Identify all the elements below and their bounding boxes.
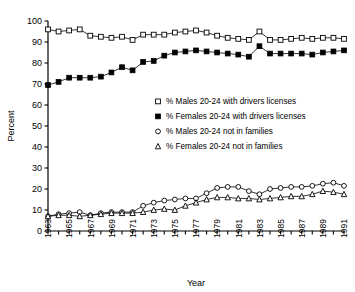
x-tick-label: 1977 (191, 219, 201, 238)
marker-open-square (120, 34, 125, 39)
marker-filled-square (67, 75, 72, 80)
marker-open-square (278, 38, 283, 43)
marker-open-square (268, 38, 273, 43)
marker-filled-square (236, 52, 241, 57)
marker-filled-square (246, 54, 251, 59)
marker-open-square (236, 36, 241, 41)
marker-open-square (56, 29, 61, 34)
marker-open-circle (331, 180, 336, 185)
marker-open-circle (268, 187, 273, 192)
legend-label: % Females 20-24 with drivers licenses (166, 112, 306, 121)
marker-open-square (183, 29, 188, 34)
marker-open-circle (299, 185, 304, 190)
marker-filled-square (88, 75, 93, 80)
marker-open-triangle (320, 188, 325, 193)
series-3 (45, 188, 346, 219)
marker-filled-square (151, 59, 156, 64)
marker-open-square (162, 32, 167, 37)
marker-filled-square (183, 49, 188, 54)
marker-open-circle (151, 200, 156, 205)
y-tick-label: 10 (32, 205, 42, 215)
y-axis-title: Percent (6, 110, 16, 142)
marker-open-square (46, 27, 51, 32)
marker-filled-square (268, 51, 273, 56)
x-axis-title: Year (187, 278, 205, 288)
marker-filled-square (225, 51, 230, 56)
x-tick-label: 1975 (170, 219, 180, 238)
marker-open-circle (310, 183, 315, 188)
marker-open-square (310, 36, 315, 41)
marker-filled-square (98, 74, 103, 79)
legend-item-3: % Females 20-24 not in families (155, 142, 282, 151)
x-tick-label: 1965 (64, 219, 74, 238)
marker-open-circle (289, 185, 294, 190)
marker-open-square (342, 36, 347, 41)
legend-label: % Females 20-24 not in families (166, 142, 283, 151)
marker-open-circle (278, 186, 283, 191)
marker-open-square (156, 99, 161, 104)
marker-open-square (172, 30, 177, 35)
marker-open-square (331, 35, 336, 40)
marker-open-square (88, 33, 93, 38)
marker-open-square (194, 28, 199, 33)
marker-open-square (289, 36, 294, 41)
y-tick-label: 70 (32, 79, 42, 89)
marker-open-circle (215, 186, 220, 191)
marker-open-circle (320, 181, 325, 186)
y-tick-label: 50 (32, 121, 42, 131)
marker-open-square (77, 27, 82, 32)
legend-label: % Males 20-24 with drivers licenses (166, 97, 296, 106)
y-tick-label: 40 (32, 142, 42, 152)
series-1 (46, 44, 347, 88)
marker-open-square (98, 34, 103, 39)
y-tick-label: 20 (32, 184, 42, 194)
marker-open-square (204, 30, 209, 35)
marker-open-square (215, 33, 220, 38)
marker-filled-square (310, 52, 315, 57)
marker-open-square (151, 32, 156, 37)
marker-filled-square (215, 50, 220, 55)
marker-open-circle (162, 198, 167, 203)
legend-label: % Males 20-24 not in families (166, 127, 273, 136)
marker-filled-square (162, 53, 167, 58)
marker-filled-square (46, 83, 51, 88)
marker-filled-square (299, 51, 304, 56)
y-tick-label: 90 (32, 37, 42, 47)
marker-filled-square (77, 75, 82, 80)
x-tick-label: 1967 (86, 219, 96, 238)
legend-item-2: % Males 20-24 not in families (156, 127, 273, 136)
x-tick-label: 1981 (234, 219, 244, 238)
x-tick-label: 1987 (297, 219, 307, 238)
marker-open-square (246, 38, 251, 43)
legend-item-1: % Females 20-24 with drivers licenses (156, 112, 306, 121)
marker-open-square (299, 35, 304, 40)
marker-open-circle (204, 191, 209, 196)
x-tick-label: 1979 (212, 219, 222, 238)
marker-open-square (225, 35, 230, 40)
y-tick-label: 60 (32, 100, 42, 110)
y-tick-label: 100 (27, 16, 42, 26)
x-tick-label: 1983 (255, 219, 265, 238)
marker-open-circle (236, 185, 241, 190)
y-tick-label: 30 (32, 163, 42, 173)
marker-filled-square (331, 49, 336, 54)
marker-filled-square (194, 48, 199, 53)
y-tick-label: 80 (32, 58, 42, 68)
marker-filled-square (109, 70, 114, 75)
marker-filled-square (320, 50, 325, 55)
x-tick-label: 1963 (43, 219, 53, 238)
marker-open-square (109, 35, 114, 40)
marker-open-triangle (155, 144, 160, 149)
marker-open-circle (342, 183, 347, 188)
marker-open-circle (183, 196, 188, 201)
x-tick-label: 1985 (276, 219, 286, 238)
chart-figure: 0102030405060708090100196319651967196919… (0, 0, 355, 292)
marker-filled-square (342, 48, 347, 53)
x-tick-label: 1969 (107, 219, 117, 238)
marker-filled-square (120, 65, 125, 70)
x-tick-label: 1991 (339, 219, 349, 238)
marker-filled-square (141, 60, 146, 65)
marker-open-circle (246, 189, 251, 194)
x-tick-label: 1989 (318, 219, 328, 238)
legend-item-0: % Males 20-24 with drivers licenses (156, 97, 297, 106)
